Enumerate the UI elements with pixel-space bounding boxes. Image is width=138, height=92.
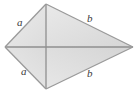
side-label-a-bottom: a [21,66,27,77]
side-label-a-top: a [17,17,23,28]
side-label-b-bottom: b [87,68,93,79]
kite-shape-svg [0,0,138,92]
side-label-b-top: b [87,13,93,24]
kite-diagram: a a b b [0,0,138,92]
